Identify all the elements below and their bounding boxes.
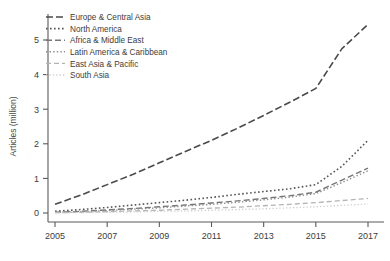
x-tick-label: 2017	[358, 231, 378, 241]
legend-label-4: East Asia & Pacific	[70, 60, 138, 69]
y-tick-label: 2	[34, 139, 39, 149]
y-tick-label: 3	[34, 105, 39, 115]
y-tick-label: 4	[34, 70, 39, 80]
x-tick-label: 2015	[306, 231, 326, 241]
y-tick-label: 1	[34, 174, 39, 184]
legend-label-2: Africa & Middle East	[70, 36, 144, 45]
x-tick-label: 2009	[149, 231, 169, 241]
legend-label-5: South Asia	[70, 71, 110, 80]
line-chart-plot: 0123452005200720092011201320152017Articl…	[0, 0, 390, 261]
legend-label-3: Latin America & Caribbean	[70, 48, 168, 57]
y-tick-label: 5	[34, 35, 39, 45]
x-tick-label: 2013	[254, 231, 274, 241]
x-tick-label: 2005	[45, 231, 65, 241]
series-line-1	[55, 140, 368, 211]
legend-label-0: Europe & Central Asia	[70, 13, 151, 22]
y-tick-label: 0	[34, 208, 39, 218]
x-tick-label: 2007	[97, 231, 117, 241]
x-tick-label: 2011	[202, 231, 221, 241]
y-axis-title: Articles (million)	[8, 96, 18, 156]
legend-label-1: North America	[70, 25, 122, 34]
chart-figure: 0123452005200720092011201320152017Articl…	[0, 0, 390, 261]
series-line-2	[55, 168, 368, 212]
